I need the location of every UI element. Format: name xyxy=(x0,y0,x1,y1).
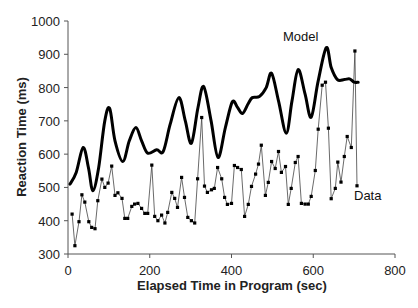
x-tick-label: 800 xyxy=(384,263,406,278)
data-point-marker xyxy=(257,163,260,166)
data-point-marker xyxy=(300,202,303,205)
data-point-marker xyxy=(110,165,113,168)
data-point-marker xyxy=(250,185,253,188)
y-tick-label: 900 xyxy=(38,47,60,62)
y-ticks: 3004005006007008009001000 xyxy=(31,14,68,262)
data-point-marker xyxy=(80,193,83,196)
data-point-marker xyxy=(203,185,206,188)
data-point-marker xyxy=(77,220,80,223)
data-point-marker xyxy=(233,164,236,167)
reaction-time-chart: 3004005006007008009001000 0200400600800 … xyxy=(0,0,418,308)
data-point-marker xyxy=(173,197,176,200)
data-point-marker xyxy=(96,199,99,202)
data-point-marker xyxy=(183,196,186,199)
model-label: Model xyxy=(283,29,319,44)
data-point-marker xyxy=(334,187,337,190)
data-point-marker xyxy=(156,219,159,222)
y-axis-title: Reaction Time (ms) xyxy=(14,77,29,197)
y-tick-label: 500 xyxy=(38,180,60,195)
data-point-marker xyxy=(310,195,313,198)
x-ticks: 0200400600800 xyxy=(64,254,405,278)
data-point-marker xyxy=(206,191,209,194)
data-point-marker xyxy=(123,217,126,220)
data-point-marker xyxy=(103,186,106,189)
data-point-marker xyxy=(321,84,324,87)
data-point-marker xyxy=(287,203,290,206)
y-tick-label: 300 xyxy=(38,247,60,262)
data-point-marker xyxy=(210,188,213,191)
data-point-marker xyxy=(146,212,149,215)
y-tick-label: 1000 xyxy=(31,14,60,29)
x-tick-label: 600 xyxy=(302,263,324,278)
data-point-marker xyxy=(71,213,74,216)
data-point-marker xyxy=(220,177,223,180)
data-point-marker xyxy=(140,207,143,210)
data-point-marker xyxy=(223,196,226,199)
data-point-marker xyxy=(226,203,229,206)
y-tick-label: 700 xyxy=(38,114,60,129)
data-point-marker xyxy=(190,219,193,222)
data-point-marker xyxy=(247,203,250,206)
data-point-marker xyxy=(166,211,169,214)
data-point-marker xyxy=(297,155,300,158)
data-point-marker xyxy=(176,206,179,209)
data-point-marker xyxy=(317,128,320,131)
data-point-marker xyxy=(170,191,173,194)
data-point-marker xyxy=(284,165,287,168)
data-point-marker xyxy=(304,203,307,206)
data-point-marker xyxy=(186,216,189,219)
data-point-marker xyxy=(143,212,146,215)
data-point-marker xyxy=(324,81,327,84)
data-point-marker xyxy=(267,181,270,184)
data-point-marker xyxy=(196,177,199,180)
data-point-marker xyxy=(330,197,333,200)
data-point-marker xyxy=(236,166,239,169)
data-point-marker xyxy=(314,169,317,172)
y-tick-label: 400 xyxy=(38,214,60,229)
data-point-marker xyxy=(133,203,136,206)
data-point-marker xyxy=(130,205,133,208)
data-point-marker xyxy=(73,244,76,247)
data-point-marker xyxy=(294,161,297,164)
data-point-marker xyxy=(100,178,103,181)
y-tick-label: 600 xyxy=(38,147,60,162)
data-point-marker xyxy=(90,226,93,229)
data-point-marker xyxy=(243,215,246,218)
data-point-marker xyxy=(346,135,349,138)
data-point-marker xyxy=(336,161,339,164)
data-point-marker xyxy=(93,227,96,230)
data-point-marker xyxy=(107,182,110,185)
data-point-marker xyxy=(339,181,342,184)
data-point-marker xyxy=(307,203,310,206)
data-point-marker xyxy=(87,220,90,223)
data-point-marker xyxy=(270,160,273,163)
x-axis-title: Elapsed Time in Program (sec) xyxy=(137,278,327,293)
x-tick-label: 400 xyxy=(221,263,243,278)
data-point-marker xyxy=(280,171,283,174)
data-point-marker xyxy=(254,173,257,176)
data-point-marker xyxy=(260,144,263,147)
data-point-marker xyxy=(126,217,129,220)
x-tick-label: 200 xyxy=(139,263,161,278)
data-point-marker xyxy=(353,49,356,52)
data-point-marker xyxy=(327,127,330,130)
data-point-marker xyxy=(163,221,166,224)
data-point-marker xyxy=(200,116,203,119)
data-point-marker xyxy=(160,214,163,217)
data-point-marker xyxy=(150,164,153,167)
data-point-marker xyxy=(213,187,216,190)
data-point-marker xyxy=(136,202,139,205)
x-tick-label: 0 xyxy=(64,263,71,278)
data-point-marker xyxy=(153,215,156,218)
data-point-marker xyxy=(240,168,243,171)
data-point-marker xyxy=(264,194,267,197)
data-point-marker xyxy=(113,194,116,197)
data-point-marker xyxy=(83,201,86,204)
data-point-marker xyxy=(290,187,293,190)
data-point-marker xyxy=(193,221,196,224)
y-tick-label: 800 xyxy=(38,81,60,96)
data-point-marker xyxy=(277,150,280,153)
data-point-marker xyxy=(230,202,233,205)
data-point-marker xyxy=(180,176,183,179)
data-point-marker xyxy=(350,146,353,149)
